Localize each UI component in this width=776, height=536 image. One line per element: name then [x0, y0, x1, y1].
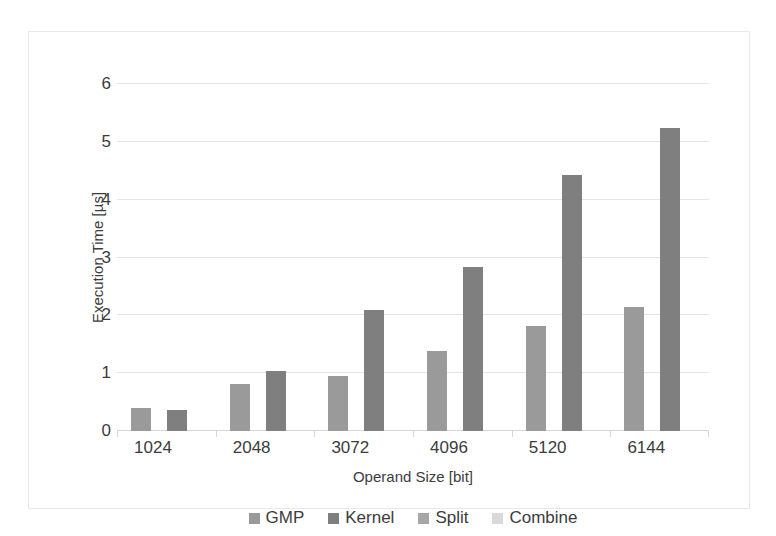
x-axis-tick-label: 2048 — [233, 438, 271, 458]
y-axis-tick-label: 3 — [102, 248, 111, 268]
x-axis-tickmark — [413, 431, 414, 437]
x-axis-tick-label: 6144 — [627, 438, 665, 458]
legend-swatch-icon — [418, 513, 429, 524]
legend-item-split[interactable]: Split — [418, 508, 468, 528]
legend-swatch-icon — [249, 513, 260, 524]
legend-swatch-icon — [492, 513, 503, 524]
y-axis-tick-label: 2 — [102, 305, 111, 325]
bar[interactable] — [167, 410, 187, 431]
y-axis-tick-label: 5 — [102, 132, 111, 152]
x-axis-tickmark — [512, 431, 513, 437]
bar-group — [117, 84, 216, 431]
bar[interactable] — [230, 384, 250, 431]
bar-group — [216, 84, 315, 431]
bar[interactable] — [131, 408, 151, 431]
x-axis-tickmark — [216, 431, 217, 437]
x-axis-tickmark — [610, 431, 611, 437]
legend-label: GMP — [266, 508, 305, 528]
y-axis-tick-label: 4 — [102, 190, 111, 210]
y-axis-tick-label: 1 — [102, 363, 111, 383]
bar-group — [314, 84, 413, 431]
plot-area — [117, 84, 709, 431]
x-axis-tick-label: 4096 — [430, 438, 468, 458]
bar[interactable] — [364, 310, 384, 431]
bar[interactable] — [526, 326, 546, 431]
x-axis-tickmark — [708, 431, 709, 437]
chart-page: Execution Time [µs] 6543210 102420483072… — [0, 0, 776, 536]
bar[interactable] — [427, 351, 447, 431]
bar[interactable] — [266, 371, 286, 431]
legend-item-combine[interactable]: Combine — [492, 508, 577, 528]
y-axis: Execution Time [µs] 6543210 — [81, 84, 111, 431]
y-axis-tick-label: 6 — [102, 74, 111, 94]
chart-frame: Execution Time [µs] 6543210 102420483072… — [28, 31, 750, 509]
x-axis-tick-label: 1024 — [134, 438, 172, 458]
bar-group — [512, 84, 611, 431]
legend-label: Kernel — [345, 508, 394, 528]
bar[interactable] — [660, 128, 680, 431]
y-axis-tick-label: 0 — [102, 421, 111, 441]
x-axis-tick-label: 5120 — [529, 438, 567, 458]
bar-group — [610, 84, 709, 431]
bar[interactable] — [562, 175, 582, 431]
x-axis-tickmark — [314, 431, 315, 437]
bar[interactable] — [463, 267, 483, 431]
bar[interactable] — [328, 376, 348, 431]
chart-legend: GMPKernelSplitCombine — [117, 508, 709, 528]
x-axis-tick-labels: 102420483072409651206144 — [117, 438, 709, 464]
bar-group — [413, 84, 512, 431]
legend-item-kernel[interactable]: Kernel — [328, 508, 394, 528]
bar[interactable] — [624, 307, 644, 431]
legend-label: Split — [435, 508, 468, 528]
legend-label: Combine — [509, 508, 577, 528]
x-axis-tickmark — [117, 431, 118, 437]
legend-swatch-icon — [328, 513, 339, 524]
x-axis-title: Operand Size [bit] — [117, 468, 709, 485]
x-axis-tick-label: 3072 — [331, 438, 369, 458]
legend-item-gmp[interactable]: GMP — [249, 508, 305, 528]
